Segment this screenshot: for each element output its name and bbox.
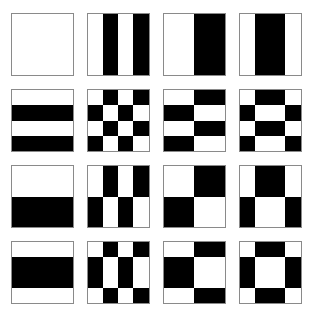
- tile-r3-c2-cell-1-0: [164, 257, 195, 272]
- tile-r2-c0: [11, 165, 74, 228]
- tile-r1-c3-cell-2-1: [255, 121, 270, 136]
- tile-r1-c1: [87, 89, 150, 152]
- tile-r1-c3-cell-0-1: [255, 90, 270, 105]
- tile-r1-c2-cell-3-0: [164, 136, 195, 151]
- tile-r3-c2-cell-0-1: [194, 242, 225, 257]
- tile-r3-c3-cell-0-3: [285, 242, 300, 257]
- tile-r3-c1-cell-3-0: [88, 288, 103, 303]
- tile-r0-c3-cell-0-3: [285, 14, 300, 75]
- tile-r1-c2-cell-0-1: [194, 90, 225, 105]
- tile-r0-c3-cell-0-0: [240, 14, 255, 75]
- tile-r3-c1-cell-2-3: [133, 273, 148, 288]
- tile-r1-c1-cell-2-2: [118, 121, 133, 136]
- tile-r1-c3-cell-2-3: [285, 121, 300, 136]
- tile-r2-c3-cell-1-1: [255, 197, 270, 228]
- tile-r3-c3-cell-3-3: [285, 288, 300, 303]
- tile-r0-c2-cell-0-1: [194, 14, 225, 75]
- tile-r3-c2-cell-1-1: [194, 257, 225, 272]
- tile-r3-c3-cell-1-0: [240, 257, 255, 272]
- tile-r2-c1-cell-1-0: [88, 197, 103, 228]
- tile-r1-c3-cell-3-3: [285, 136, 300, 151]
- tile-r1-c3-cell-0-0: [240, 90, 255, 105]
- tile-r3-c3: [239, 241, 302, 304]
- tile-r3-c1-cell-0-1: [103, 242, 118, 257]
- tile-r0-c1-cell-0-2: [118, 14, 133, 75]
- tile-r1-c1-cell-2-0: [88, 121, 103, 136]
- tile-r1-c2-cell-2-0: [164, 121, 195, 136]
- tile-r3-c1-cell-2-0: [88, 273, 103, 288]
- tile-r2-c2: [163, 165, 226, 228]
- tile-r2-c3-cell-0-3: [285, 166, 300, 197]
- tile-r1-c2-cell-3-1: [194, 136, 225, 151]
- tile-r3-c2-cell-3-1: [194, 288, 225, 303]
- tile-r0-c1-cell-0-3: [133, 14, 148, 75]
- tile-r3-c3-cell-1-2: [270, 257, 285, 272]
- tile-r3-c3-cell-2-1: [255, 273, 270, 288]
- tile-r0-c1-cell-0-0: [88, 14, 103, 75]
- tile-r2-c0-cell-0-0: [12, 166, 73, 197]
- tile-r2-c1: [87, 165, 150, 228]
- tile-r3-c1-cell-3-1: [103, 288, 118, 303]
- tile-r1-c3-cell-0-2: [270, 90, 285, 105]
- tile-r1-c1-cell-3-3: [133, 136, 148, 151]
- tile-r0-c0-cell-0-0: [12, 14, 73, 75]
- tile-r1-c3-cell-1-1: [255, 105, 270, 120]
- tile-r3-c0-cell-1-0: [12, 257, 73, 272]
- tile-r2-c2-cell-0-0: [164, 166, 195, 197]
- tile-r2-c3-cell-1-0: [240, 197, 255, 228]
- tile-r1-c3-cell-3-2: [270, 136, 285, 151]
- tile-r1-c3-cell-1-3: [285, 105, 300, 120]
- tile-r3-c1-cell-1-1: [103, 257, 118, 272]
- tile-r1-c1-cell-3-1: [103, 136, 118, 151]
- tile-r1-c0-cell-1-0: [12, 105, 73, 120]
- tile-r1-c2-cell-0-0: [164, 90, 195, 105]
- tile-r2-c1-cell-0-0: [88, 166, 103, 197]
- tile-r2-c1-cell-0-1: [103, 166, 118, 197]
- tile-r1-c2-cell-1-0: [164, 105, 195, 120]
- tile-r1-c3-cell-2-0: [240, 121, 255, 136]
- tile-r1-c3-cell-1-2: [270, 105, 285, 120]
- tile-r2-c2-cell-0-1: [194, 166, 225, 197]
- tile-r3-c3-cell-3-0: [240, 288, 255, 303]
- tile-r3-c2-cell-3-0: [164, 288, 195, 303]
- tile-r2-c1-cell-1-1: [103, 197, 118, 228]
- tile-r3-c1-cell-0-0: [88, 242, 103, 257]
- tile-r2-c1-cell-0-2: [118, 166, 133, 197]
- tile-r0-c3-cell-0-2: [270, 14, 285, 75]
- tile-r3-c0-cell-2-0: [12, 273, 73, 288]
- tile-r1-c2-cell-2-1: [194, 121, 225, 136]
- tile-r1-c1-cell-2-1: [103, 121, 118, 136]
- tile-r1-c0: [11, 89, 74, 152]
- tile-r2-c3-cell-0-2: [270, 166, 285, 197]
- tile-r0-c1-cell-0-1: [103, 14, 118, 75]
- tile-r2-c2-cell-1-0: [164, 197, 195, 228]
- tile-r3-c3-cell-2-2: [270, 273, 285, 288]
- tile-r2-c2-cell-1-1: [194, 197, 225, 228]
- tile-r1-c3-cell-1-0: [240, 105, 255, 120]
- tile-r1-c1-cell-0-3: [133, 90, 148, 105]
- tile-r3-c3-cell-3-1: [255, 288, 270, 303]
- tile-r3-c2-cell-2-1: [194, 273, 225, 288]
- tile-r3-c1-cell-2-2: [118, 273, 133, 288]
- tile-r3-c1-cell-1-3: [133, 257, 148, 272]
- tile-r3-c1-cell-3-3: [133, 288, 148, 303]
- tile-r1-c3-cell-2-2: [270, 121, 285, 136]
- tile-r3-c3-cell-3-2: [270, 288, 285, 303]
- tile-r0-c3-cell-0-1: [255, 14, 270, 75]
- tile-r2-c1-cell-1-2: [118, 197, 133, 228]
- tile-r1-c1-cell-2-3: [133, 121, 148, 136]
- tile-r2-c3-cell-0-0: [240, 166, 255, 197]
- tile-r1-c1-cell-0-0: [88, 90, 103, 105]
- tile-r1-c1-cell-1-3: [133, 105, 148, 120]
- tile-r0-c3: [239, 13, 302, 76]
- tile-r0-c1: [87, 13, 150, 76]
- tile-r1-c0-cell-0-0: [12, 90, 73, 105]
- tile-r1-c1-cell-3-0: [88, 136, 103, 151]
- tile-r3-c1-cell-0-2: [118, 242, 133, 257]
- tile-r1-c1-cell-0-2: [118, 90, 133, 105]
- tile-r3-c3-cell-0-1: [255, 242, 270, 257]
- tile-r1-c3: [239, 89, 302, 152]
- tile-r2-c3: [239, 165, 302, 228]
- tile-r2-c3-cell-1-2: [270, 197, 285, 228]
- tile-r3-c2: [163, 241, 226, 304]
